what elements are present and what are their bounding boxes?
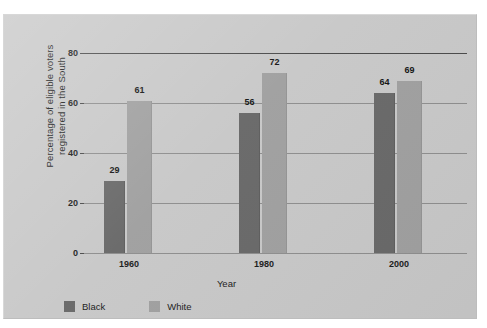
legend-item-white[interactable]: White — [149, 301, 191, 312]
bar-value-2000-white: 69 — [394, 66, 425, 75]
chart-plate: Percentage of eligible voters registered… — [3, 14, 477, 319]
bar-value-1980-white: 72 — [259, 58, 290, 67]
bar-value-2000-black: 64 — [369, 78, 400, 87]
legend-swatch-black-icon — [64, 301, 75, 312]
bar-1980-white[interactable] — [262, 73, 287, 253]
y-tick-label-40: 40 — [52, 149, 78, 158]
gridline-0-baseline — [84, 253, 467, 254]
gridline-80 — [84, 53, 467, 54]
y-tick-label-80: 80 — [52, 49, 78, 58]
legend-label-black: Black — [82, 302, 105, 312]
y-tick-label-60: 60 — [52, 99, 78, 108]
bar-chart-figure: Percentage of eligible voters registered… — [0, 0, 487, 328]
bar-2000-white[interactable] — [397, 81, 422, 254]
y-tick-label-0: 0 — [52, 249, 78, 258]
bar-1960-white[interactable] — [127, 101, 152, 254]
legend-item-black[interactable]: Black — [64, 301, 105, 312]
x-tick-label-2000: 2000 — [379, 260, 419, 269]
y-tick-label-20: 20 — [52, 199, 78, 208]
x-tick-label-1980: 1980 — [244, 260, 284, 269]
chart-legend: Black White — [64, 301, 192, 312]
x-axis-title-text: Year — [217, 278, 236, 289]
legend-label-white: White — [167, 302, 191, 312]
y-axis: 80 60 40 20 0 — [50, 53, 78, 253]
bar-2000-black[interactable] — [374, 93, 395, 253]
bar-1960-black[interactable] — [104, 181, 125, 254]
bar-value-1960-black: 29 — [99, 166, 130, 175]
bar-value-1960-white: 61 — [124, 86, 155, 95]
bar-1980-black[interactable] — [239, 113, 260, 253]
x-axis-title: Year — [4, 278, 487, 289]
x-tick-label-1960: 1960 — [109, 260, 149, 269]
legend-swatch-white-icon — [149, 301, 160, 312]
plot-area: 29 61 56 72 64 69 — [84, 53, 467, 253]
bar-value-1980-black: 56 — [234, 98, 265, 107]
